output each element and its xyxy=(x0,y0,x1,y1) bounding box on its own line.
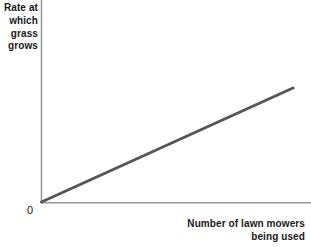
trend-line xyxy=(42,88,294,202)
origin-label: 0 xyxy=(27,204,33,217)
chart-page: Rate at which grass grows Number of lawn… xyxy=(0,0,311,247)
y-axis-label: Rate at which grass grows xyxy=(0,2,38,53)
x-axis-label: Number of lawn mowers being used xyxy=(175,218,305,244)
line-chart-plot xyxy=(0,0,311,247)
